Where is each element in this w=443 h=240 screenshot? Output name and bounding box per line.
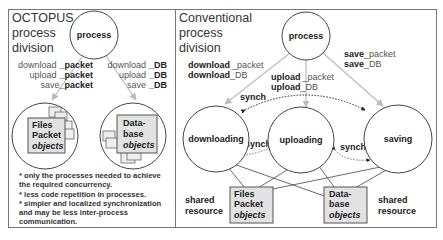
svg-text:save_DB: save_DB xyxy=(344,59,382,69)
svg-text:upload_DB: upload_DB xyxy=(271,82,318,92)
svg-text:Packet: Packet xyxy=(32,130,61,140)
shared-resource-right-line-1: shared xyxy=(378,195,408,205)
sync-label-right: synch xyxy=(340,142,366,152)
left-title-line-2: process xyxy=(12,26,56,40)
uploading-label: uploading xyxy=(280,135,323,145)
svg-text:objects: objects xyxy=(32,141,64,151)
files-packet-resource: Files Packet objects xyxy=(230,187,273,223)
svg-text:upload_DB: upload_DB xyxy=(119,70,168,80)
svg-text:* only the processes needed to: * only the processes needed to achieve xyxy=(19,171,161,180)
database-objects-group: Data- base objects xyxy=(100,103,166,169)
shared-resource-left-line-2: resource xyxy=(185,206,223,216)
svg-text:Data-: Data- xyxy=(329,189,352,199)
upload-method-labels: upload_packet upload_DB xyxy=(271,72,335,92)
svg-text:Packet: Packet xyxy=(234,199,263,209)
svg-text:* less code repetition in proc: * less code repetition in processes. xyxy=(19,190,146,199)
files-packet-objects-group: Files Packet objects xyxy=(12,103,78,169)
right-title-line-1: Conventional xyxy=(179,11,252,25)
db-method-labels: download_DB upload_DB save_DB xyxy=(107,60,167,90)
svg-text:objects: objects xyxy=(329,210,361,220)
svg-text:download_DB: download_DB xyxy=(107,60,167,70)
save-method-labels: save_packet save_DB xyxy=(344,49,396,69)
left-panel: OCTOPUS process division process downloa… xyxy=(12,11,167,226)
packet-method-labels: download_packet upload_packet save_packe… xyxy=(18,60,93,90)
right-process-label: process xyxy=(289,31,324,41)
svg-text:Data-: Data- xyxy=(123,118,146,128)
object-icon xyxy=(106,138,118,148)
svg-text:download_DB: download_DB xyxy=(188,70,248,80)
svg-text:Files: Files xyxy=(32,120,53,130)
sync-label-top: synch xyxy=(240,92,266,102)
svg-text:save_packet: save_packet xyxy=(40,80,93,90)
left-process-label: process xyxy=(77,30,112,40)
download-method-labels: download_packet download_DB xyxy=(188,60,264,80)
left-title-line-3: division xyxy=(12,41,54,55)
process-division-diagram: OCTOPUS process division process downloa… xyxy=(0,0,443,240)
right-panel: Conventional process division process do… xyxy=(179,11,432,223)
svg-text:upload_packet: upload_packet xyxy=(271,72,335,82)
database-resource: Data- base objects xyxy=(324,187,367,223)
shared-resource-right-line-2: resource xyxy=(378,206,416,216)
svg-text:upload_packet: upload_packet xyxy=(29,70,93,80)
right-title-line-2: process xyxy=(179,26,223,40)
right-title-line-3: division xyxy=(179,41,221,55)
svg-text:* simpler and localized synchr: * simpler and localized synchronization xyxy=(19,199,162,208)
svg-text:save_packet: save_packet xyxy=(344,49,396,59)
left-title-line-1: OCTOPUS xyxy=(12,11,74,25)
svg-text:download_packet: download_packet xyxy=(188,60,264,70)
shared-resource-left-line-1: shared xyxy=(185,195,215,205)
downloading-label: downloading xyxy=(188,134,244,144)
svg-text:base: base xyxy=(123,129,144,139)
svg-text:the required concurrency.: the required concurrency. xyxy=(19,180,112,189)
svg-text:and may be less inter-process: and may be less inter-process xyxy=(19,208,128,217)
svg-text:objects: objects xyxy=(234,210,266,220)
svg-text:save_DB: save_DB xyxy=(127,80,168,90)
svg-text:communication.: communication. xyxy=(19,217,77,226)
notes: * only the processes needed to achieve t… xyxy=(19,171,162,226)
svg-text:base: base xyxy=(329,199,350,209)
saving-label: saving xyxy=(384,134,413,144)
svg-text:Files: Files xyxy=(234,189,255,199)
svg-text:download_packet: download_packet xyxy=(18,60,93,70)
svg-text:objects: objects xyxy=(123,140,155,150)
